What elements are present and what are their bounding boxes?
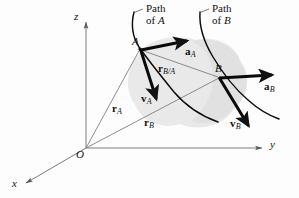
vector-r-ba-subscript: B/A: [163, 67, 175, 76]
vector-v-a-label: vA: [141, 93, 152, 107]
vector-v-b-subscript: B: [236, 122, 241, 131]
vector-a-b-symbol: a: [264, 80, 270, 92]
path-of-b-caption: Path of B: [212, 3, 232, 26]
relative-motion-diagram: z y x O A B Path of A Path of B aA vA aB…: [0, 0, 299, 198]
vector-a-b-subscript: B: [270, 85, 275, 94]
z-axis-label: z: [74, 11, 78, 23]
path-of-a-line2: of A: [146, 15, 166, 27]
vector-v-b-symbol: v: [230, 117, 236, 129]
origin-label: O: [76, 149, 84, 161]
caption-leader-lines: [133, 9, 209, 13]
vector-r-a-subscript: A: [117, 107, 122, 116]
vector-v-b-label: vB: [230, 118, 241, 132]
vector-r-b-label: rB: [144, 117, 154, 131]
vector-a-a-subscript: A: [191, 50, 196, 59]
leader-path-b: [199, 9, 209, 13]
point-a-label: A: [132, 36, 139, 48]
vector-v-a-symbol: v: [141, 92, 147, 104]
path-of-a-var: A: [158, 14, 165, 26]
path-of-b-line2: of B: [212, 15, 232, 27]
vector-a-b-label: aB: [264, 81, 275, 95]
vector-v-a-subscript: A: [147, 97, 152, 106]
point-b-label: B: [215, 63, 222, 75]
point-b-marker: [218, 76, 221, 79]
path-of-a-of-word: of: [146, 14, 158, 26]
path-of-b-of-word: of: [212, 14, 224, 26]
x-axis-label: x: [12, 178, 17, 190]
leader-path-a: [133, 9, 143, 13]
y-axis-label: y: [270, 139, 275, 151]
vector-r-b-subscript: B: [149, 121, 154, 130]
path-of-b-var: B: [224, 14, 231, 26]
vector-r-a-label: rA: [112, 103, 122, 117]
path-of-a-caption: Path of A: [146, 3, 166, 26]
point-a-marker: [138, 47, 141, 50]
vector-a-a-label: aA: [185, 46, 196, 60]
vector-r-ba-label: rB/A: [158, 63, 175, 77]
vector-a-a-symbol: a: [185, 45, 191, 57]
